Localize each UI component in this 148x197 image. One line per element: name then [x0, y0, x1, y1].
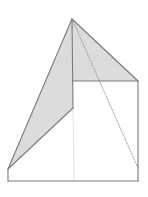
hidden-faint-edges: [73, 108, 74, 181]
hidden-dashed-edges: [72, 19, 138, 168]
dashed-edge: [72, 19, 138, 168]
faint-edge: [73, 108, 74, 181]
geometric-diagram: [0, 0, 148, 197]
